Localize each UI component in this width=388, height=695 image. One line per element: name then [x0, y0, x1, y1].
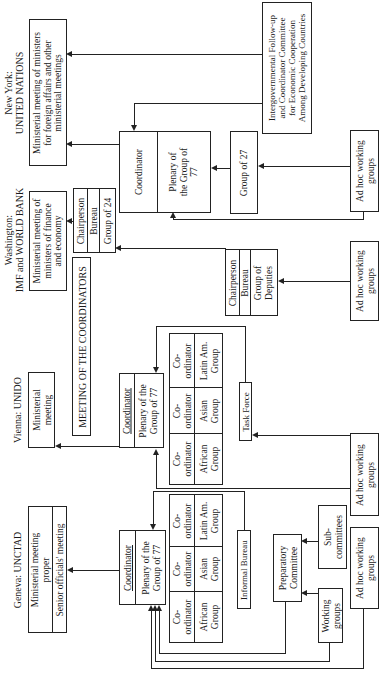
- vienna-coordinator-cell: Coordinator: [120, 374, 135, 447]
- text-line: ordinator: [182, 442, 193, 477]
- vienna-latin-coordinator-cell: Co-ordinator: [170, 334, 195, 388]
- connector: [173, 219, 364, 220]
- group-27-box: Group of 27: [230, 131, 258, 214]
- geneva-african-coordinator-cell: Co-ordinator: [170, 592, 195, 642]
- text-line: Plenary of the: [140, 541, 151, 594]
- text-line: Plenary of: [168, 152, 179, 191]
- arrow-icon: [153, 367, 159, 373]
- connector: [134, 103, 135, 126]
- text-line: Co-: [171, 513, 182, 527]
- text-line: ordinator: [182, 552, 193, 587]
- text-line: groups: [365, 555, 376, 581]
- text-line: African: [198, 603, 209, 632]
- connector: [153, 491, 154, 525]
- informal-bureau-label: Informal Bureau: [239, 540, 249, 600]
- text-line: Ministerial meeting: [30, 532, 41, 607]
- text-line: Group: [209, 508, 220, 532]
- vienna-african-coordinator-cell: Co-ordinator: [170, 434, 195, 484]
- connector: [70, 54, 263, 55]
- connector: [153, 491, 244, 492]
- connector: [216, 168, 231, 169]
- connector: [159, 653, 286, 654]
- geneva-african-group-cell: AfricanGroup: [195, 592, 222, 642]
- deputies-group-cell: Group of Deputies: [251, 250, 277, 315]
- text-line: 77: [189, 167, 200, 177]
- text-line: Latin Am.: [198, 341, 209, 380]
- arrow-icon: [55, 443, 61, 449]
- text-line: ordinator: [182, 343, 193, 378]
- heading-line: Geneva: UNCTAD: [12, 531, 23, 608]
- text-line: for Economic Cooperation: [287, 20, 297, 116]
- washington-ministerial-box: Ministerial meeting of ministers of fina…: [29, 191, 67, 291]
- text-line: and economy: [53, 216, 64, 267]
- vienna-regional-groups-grid: Co-ordinator Latin Am.Group Co-ordinator…: [169, 333, 223, 485]
- geneva-coordinator-cell: Coordinator: [120, 531, 136, 604]
- text-line: Chairperson: [227, 259, 238, 305]
- vienna-asian-coordinator-cell: Co-ordinator: [170, 388, 195, 434]
- text-line: Ministerial meeting of ministers: [32, 31, 43, 153]
- g24-bureau-cell: Bureau: [88, 189, 100, 252]
- ny-adhoc-box: Ad hoc working groups: [350, 130, 379, 212]
- text-line: Intergovernmental Follow-up: [267, 15, 277, 121]
- text-line: and Coordinator Committee: [277, 18, 287, 119]
- arrow-icon: [148, 605, 154, 611]
- task-force-label: Task Force: [240, 392, 250, 432]
- text-line: Co-: [171, 610, 182, 624]
- text-line: Deputies: [264, 266, 275, 300]
- text-line: Committee: [288, 547, 299, 589]
- text-line: Sub-: [322, 528, 333, 546]
- deputies-bureau-cell: Bureau: [240, 250, 251, 315]
- arrow-icon: [131, 125, 137, 131]
- text-line: Group: [209, 447, 220, 471]
- text-line: Co-: [171, 353, 182, 367]
- arrow-icon: [67, 567, 73, 573]
- text-line: meeting: [42, 395, 53, 426]
- connector: [263, 166, 351, 167]
- connector: [156, 326, 157, 368]
- geneva-asian-coordinator-cell: Co-ordinator: [170, 547, 195, 592]
- text-line: proper: [41, 557, 52, 582]
- geneva-heading: Geneva: UNCTAD: [10, 506, 26, 633]
- coordinator-label: Coordinator: [133, 149, 144, 195]
- text-line: Group of: [253, 265, 264, 300]
- connector: [306, 541, 319, 542]
- geneva-ministerial-box: Ministerial meeting proper Senior offici…: [28, 506, 67, 633]
- text-line: ordinator: [182, 600, 193, 635]
- geneva-regional-groups-grid: Co-ordinator Latin Am.Group Co-ordinator…: [169, 494, 223, 643]
- arrow-icon: [115, 245, 121, 251]
- text-line: Ministerial: [31, 389, 42, 431]
- connector: [257, 435, 351, 436]
- arrow-icon: [301, 538, 307, 544]
- text-line: Ad hoc working: [354, 444, 365, 506]
- heading-line: Washington:: [3, 215, 14, 265]
- group-27-label: Group of 27: [239, 149, 250, 195]
- connector: [285, 602, 286, 654]
- group-deputies-box: Chairperson Bureau Group of Deputies: [225, 249, 278, 316]
- ministerial-proper-cell: Ministerial meeting proper: [29, 507, 53, 632]
- vienna-ministerial-box: Ministerial meeting: [28, 372, 55, 448]
- connector: [151, 611, 152, 669]
- subcommittees-box: Sub- committees: [318, 505, 347, 569]
- text-line: ordinator: [182, 393, 193, 428]
- text-line: for foreign affairs and other: [43, 40, 54, 145]
- connector: [72, 570, 120, 571]
- text-line: Preparatory: [277, 546, 288, 590]
- text-line: Latin Am.: [198, 501, 209, 540]
- connector: [363, 212, 364, 220]
- text-line: African: [198, 445, 209, 474]
- text-line: Group of 77: [149, 387, 160, 433]
- text-line: Asian: [198, 558, 209, 580]
- text-line: Among Developing Countries: [297, 14, 307, 123]
- coordinator-label: Coordinator: [122, 545, 133, 591]
- text-line: Plenary of the: [138, 384, 149, 437]
- connector: [156, 488, 351, 489]
- text-line: ministers of finance: [43, 203, 54, 278]
- connector: [306, 593, 319, 594]
- connector: [134, 103, 263, 104]
- vienna-latin-group-cell: Latin Am.Group: [195, 334, 222, 388]
- text-line: Group: [209, 557, 220, 581]
- connector: [155, 661, 330, 662]
- coordinators-meeting-label: MEETING OF THE COORDINATORS: [76, 266, 87, 428]
- text-line: Group: [209, 605, 220, 629]
- text-line: Asian: [198, 399, 209, 421]
